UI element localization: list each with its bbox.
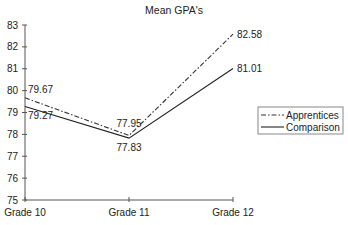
- data-label: 79.67: [28, 84, 53, 95]
- legend-label-apprentices: Apprentices: [286, 110, 339, 121]
- x-tick-label: Grade 10: [4, 207, 46, 218]
- y-tick-label: 77: [7, 151, 19, 162]
- y-tick-label: 83: [7, 20, 19, 31]
- data-label: 82.58: [237, 29, 262, 40]
- data-label: 77.95: [116, 118, 141, 129]
- data-label: 79.27: [28, 110, 53, 121]
- data-label: 81.01: [237, 63, 262, 74]
- y-tick-label: 79: [7, 107, 19, 118]
- y-tick-label: 78: [7, 129, 19, 140]
- line-chart: 757677787980818283Grade 10Grade 11Grade …: [0, 0, 348, 225]
- x-tick-label: Grade 12: [212, 207, 254, 218]
- legend-label-comparison: Comparison: [286, 122, 340, 133]
- data-label: 77.83: [116, 142, 141, 153]
- y-tick-label: 81: [7, 63, 19, 74]
- y-tick-label: 75: [7, 195, 19, 206]
- y-tick-label: 76: [7, 173, 19, 184]
- y-tick-label: 80: [7, 85, 19, 96]
- chart-legend: ApprenticesComparison: [258, 107, 343, 134]
- data-labels: 79.6777.9582.5879.2777.8381.01: [28, 29, 262, 153]
- y-tick-label: 82: [7, 41, 19, 52]
- x-tick-label: Grade 11: [109, 207, 150, 218]
